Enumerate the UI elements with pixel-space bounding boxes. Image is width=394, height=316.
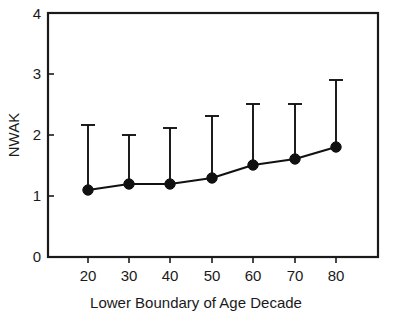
y-axis-tick-labels: 0 1 2 3 4 [33, 5, 41, 265]
chart-figure: 0 1 2 3 4 20 30 40 50 60 70 80 Lower B [0, 0, 394, 316]
data-point-30 [124, 179, 134, 189]
data-point-40 [165, 179, 175, 189]
error-bar-50 [205, 116, 219, 178]
y-tick-label-4: 4 [33, 5, 41, 22]
error-bar-80 [329, 80, 343, 147]
error-bar-40 [163, 128, 177, 184]
x-tick-label-60: 60 [245, 267, 262, 284]
data-point-80 [331, 142, 341, 152]
data-point-70 [290, 154, 300, 164]
x-tick-label-80: 80 [328, 267, 345, 284]
y-axis-title: NWAK [5, 113, 22, 157]
data-point-20 [83, 185, 93, 195]
error-bar-30 [122, 135, 136, 184]
data-point-60 [248, 160, 258, 170]
plot-frame [48, 13, 378, 257]
x-tick-label-30: 30 [121, 267, 138, 284]
x-axis-title: Lower Boundary of Age Decade [90, 294, 302, 311]
error-bar-60 [246, 104, 260, 165]
chart-plot-svg: 0 1 2 3 4 20 30 40 50 60 70 80 Lower B [0, 0, 394, 316]
x-tick-label-20: 20 [80, 267, 97, 284]
y-tick-label-0: 0 [33, 248, 41, 265]
error-bar-20 [81, 125, 95, 190]
x-axis-tick-labels: 20 30 40 50 60 70 80 [80, 267, 345, 284]
y-tick-label-2: 2 [33, 126, 41, 143]
error-bar-70 [288, 104, 302, 159]
x-tick-label-50: 50 [204, 267, 221, 284]
x-tick-label-40: 40 [162, 267, 179, 284]
data-point-50 [207, 173, 217, 183]
y-tick-label-1: 1 [33, 187, 41, 204]
y-tick-label-3: 3 [33, 65, 41, 82]
x-tick-label-70: 70 [287, 267, 304, 284]
